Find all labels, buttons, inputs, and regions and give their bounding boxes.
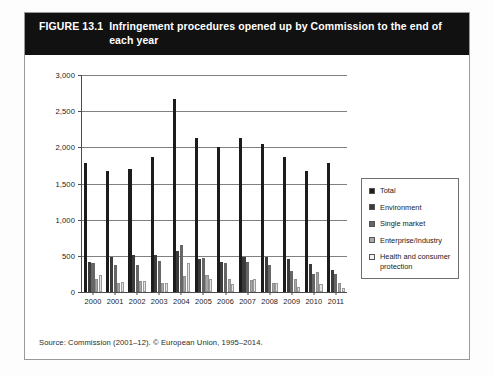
- bars-layer: 2000200120022003200420052006200720082009…: [82, 75, 347, 292]
- x-axis-label: 2009: [283, 297, 300, 306]
- legend-item-label: Enterprise/Industry: [380, 236, 442, 246]
- x-axis-tick: [247, 292, 248, 295]
- bar: [209, 279, 212, 292]
- legend-item: Health and consumer protection: [369, 252, 452, 271]
- x-axis-label: 2002: [129, 297, 146, 306]
- x-axis-tick: [115, 292, 116, 295]
- legend-item: Single market: [369, 219, 452, 229]
- y-axis-label: 3,000: [55, 71, 75, 80]
- x-axis-label: 2011: [328, 297, 344, 306]
- legend-item-label: Single market: [380, 219, 425, 229]
- bar: [187, 263, 190, 292]
- y-axis-label: 1,500: [55, 179, 75, 188]
- figure-root: FIGURE 13.1 Infringement procedures open…: [0, 0, 494, 376]
- bar: [99, 275, 102, 292]
- bar-group: 2008: [259, 75, 281, 292]
- bar-group: 2005: [192, 75, 214, 292]
- plot-area: 05001,0001,5002,0002,5003,000 2000200120…: [25, 61, 471, 361]
- x-axis-label: 2001: [107, 297, 124, 306]
- legend-item: Environment: [369, 203, 452, 213]
- y-axis-label: 2,000: [55, 143, 75, 152]
- x-axis-tick: [203, 292, 204, 295]
- y-axis-label: 0: [71, 288, 75, 297]
- figure-source: Source: Commission (2001–12). © European…: [39, 338, 263, 347]
- x-axis-tick: [93, 292, 94, 295]
- x-axis-tick: [181, 292, 182, 295]
- bar: [253, 279, 256, 292]
- x-axis-tick: [335, 292, 336, 295]
- x-axis-tick: [159, 292, 160, 295]
- chart-legend: Total Environment Single market Enterpri…: [361, 178, 459, 279]
- x-axis-tick: [225, 292, 226, 295]
- y-axis-tick: [78, 292, 82, 293]
- figure-number-label: FIGURE 13.1: [39, 20, 103, 34]
- bar-group: 2004: [170, 75, 192, 292]
- bar-group: 2009: [281, 75, 303, 292]
- bar: [165, 283, 168, 292]
- figure-title-bar: FIGURE 13.1 Infringement procedures open…: [25, 13, 469, 55]
- legend-swatch-icon: [369, 221, 375, 227]
- legend-item-label: Environment: [380, 203, 422, 213]
- legend-item: Enterprise/Industry: [369, 236, 452, 246]
- x-axis-label: 2005: [195, 297, 212, 306]
- bar: [231, 284, 234, 292]
- x-axis-label: 2000: [85, 297, 102, 306]
- legend-swatch-icon: [369, 237, 375, 243]
- x-axis-tick: [137, 292, 138, 295]
- x-axis-label: 2006: [217, 297, 234, 306]
- bar-group: 2000: [82, 75, 104, 292]
- x-axis-label: 2008: [261, 297, 278, 306]
- legend-swatch-icon: [369, 204, 375, 210]
- legend-swatch-icon: [369, 254, 375, 260]
- bar-group: 2007: [237, 75, 259, 292]
- bar: [297, 287, 300, 292]
- legend-item: Total: [369, 186, 452, 196]
- x-axis-tick: [269, 292, 270, 295]
- x-axis-tick: [291, 292, 292, 295]
- figure-title-row: FIGURE 13.1 Infringement procedures open…: [39, 20, 457, 47]
- bar: [275, 283, 278, 292]
- figure-frame: FIGURE 13.1 Infringement procedures open…: [24, 12, 470, 360]
- bar-group: 2011: [325, 75, 347, 292]
- bar-group: 2010: [303, 75, 325, 292]
- bar: [121, 282, 124, 292]
- x-axis-label: 2003: [151, 297, 168, 306]
- x-axis-label: 2004: [173, 297, 190, 306]
- x-axis-tick: [313, 292, 314, 295]
- y-axis-label: 500: [62, 251, 75, 260]
- y-axis-label: 1,000: [55, 215, 75, 224]
- bar-group: 2002: [126, 75, 148, 292]
- x-axis-label: 2007: [239, 297, 256, 306]
- legend-swatch-icon: [369, 188, 375, 194]
- bar: [342, 288, 345, 292]
- bar-group: 2006: [214, 75, 236, 292]
- bar: [319, 284, 322, 292]
- x-axis-label: 2010: [305, 297, 322, 306]
- bar-group: 2003: [148, 75, 170, 292]
- figure-title-text: Infringement procedures opened up by Com…: [109, 20, 457, 47]
- y-axis-label: 2,500: [55, 107, 75, 116]
- bar-group: 2001: [104, 75, 126, 292]
- legend-item-label: Total: [380, 186, 396, 196]
- chart-axes: 05001,0001,5002,0002,5003,000 2000200120…: [81, 75, 347, 293]
- bar: [143, 281, 146, 292]
- legend-item-label: Health and consumer protection: [380, 252, 452, 271]
